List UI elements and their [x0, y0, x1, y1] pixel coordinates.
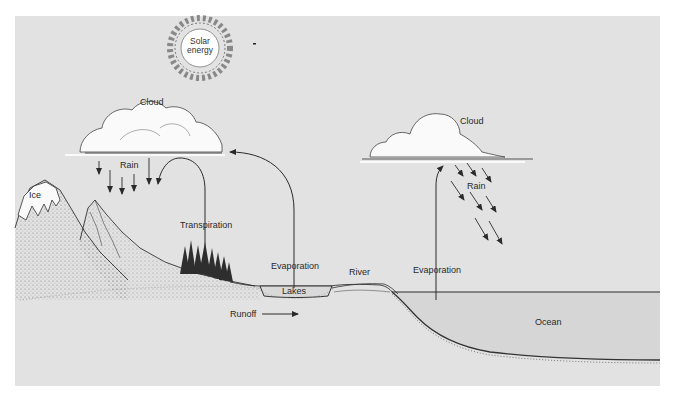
solar-energy-label: Solar energy: [180, 37, 220, 56]
rain-arrows-right: [451, 163, 502, 244]
ocean-body: [392, 292, 660, 360]
ice-label: Ice: [29, 191, 41, 200]
evaporation-ocean-label: Evaporation: [413, 266, 461, 275]
cloud-left-shape: [65, 101, 225, 155]
evaporation-ocean-arrow: [436, 166, 443, 300]
lakes-label: Lakes: [282, 287, 306, 296]
rain-right-label: Rain: [467, 182, 486, 191]
rain-left-label: Rain: [120, 161, 139, 170]
cloud-right-shape: [360, 114, 533, 162]
cloud-right-label: Cloud: [460, 117, 484, 126]
river-label: River: [349, 268, 370, 277]
evaporation-lake-label: Evaporation: [271, 262, 319, 271]
solar-label-line2: energy: [180, 46, 220, 55]
water-cycle-illustration: [0, 0, 675, 405]
cloud-left-label: Cloud: [140, 98, 164, 107]
ocean-label: Ocean: [535, 318, 562, 327]
transpiration-label: Transpiration: [180, 221, 232, 230]
runoff-label: Runoff: [230, 310, 256, 319]
